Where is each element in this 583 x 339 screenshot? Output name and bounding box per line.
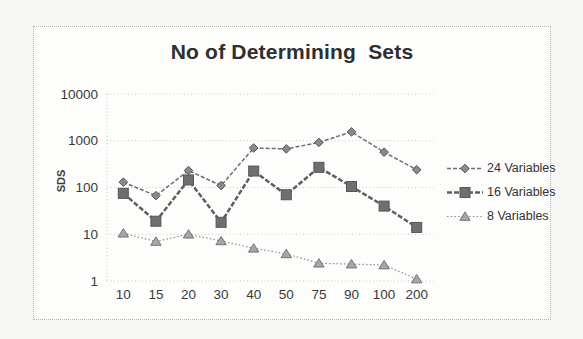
x-tick-20: 20	[181, 287, 196, 302]
series-24-variables	[119, 128, 421, 200]
square-marker-16-variables	[249, 166, 259, 176]
x-tick-100: 100	[373, 287, 396, 302]
legend-diamond-glyph	[461, 164, 470, 173]
square-marker-icon	[446, 186, 484, 199]
legend-marker-24-variables	[461, 164, 470, 173]
series-line-24-variables	[123, 132, 416, 196]
legend-label-16-variables: 16 Variables	[487, 185, 556, 199]
series-line-8-variables	[123, 233, 416, 279]
legend-marker-16-variables	[460, 187, 470, 197]
x-tick-30: 30	[214, 287, 229, 302]
y-tick-10000: 10000	[60, 87, 98, 102]
triangle-marker-8-variables	[118, 229, 128, 237]
x-tick-15: 15	[148, 287, 163, 302]
triangle-marker-icon	[446, 210, 484, 223]
series-line-16-variables	[123, 167, 416, 227]
square-marker-16-variables	[216, 217, 226, 227]
square-marker-16-variables	[151, 216, 161, 226]
y-tick-1000: 1000	[68, 133, 98, 148]
diamond-marker-24-variables	[119, 178, 128, 187]
y-tick-10: 10	[83, 227, 98, 242]
legend-item-24-variables: 24 Variables	[446, 161, 550, 175]
square-marker-16-variables	[184, 175, 194, 185]
x-tick-50: 50	[279, 287, 294, 302]
legend-square-glyph	[460, 187, 470, 197]
diamond-marker-icon	[446, 162, 484, 175]
square-marker-16-variables	[118, 188, 128, 198]
square-marker-16-variables	[314, 162, 324, 172]
square-marker-16-variables	[347, 182, 357, 192]
series-8-variables	[118, 229, 422, 283]
square-marker-16-variables	[412, 222, 422, 232]
legend-triangle-glyph	[460, 211, 470, 219]
series-16-variables	[118, 162, 421, 232]
chart-figure-frame: No of Determining Sets SDS 1101001000100…	[33, 26, 551, 320]
triangle-marker-8-variables	[412, 274, 422, 282]
x-tick-75: 75	[311, 287, 326, 302]
diamond-marker-24-variables	[380, 148, 389, 157]
diamond-marker-24-variables	[315, 138, 324, 147]
diamond-marker-24-variables	[412, 165, 421, 174]
diamond-marker-24-variables	[347, 128, 356, 137]
legend-item-16-variables: 16 Variables	[446, 185, 550, 199]
square-marker-16-variables	[379, 201, 389, 211]
legend-item-8-variables: 8 Variables	[446, 209, 550, 223]
x-tick-90: 90	[344, 287, 359, 302]
y-tick-1: 1	[90, 274, 98, 289]
x-tick-200: 200	[405, 287, 428, 302]
y-tick-100: 100	[75, 180, 98, 195]
x-tick-40: 40	[246, 287, 261, 302]
legend-label-24-variables: 24 Variables	[487, 161, 556, 175]
triangle-marker-8-variables	[379, 260, 389, 268]
x-tick-10: 10	[116, 287, 131, 302]
legend-label-8-variables: 8 Variables	[487, 209, 549, 223]
diamond-marker-24-variables	[282, 145, 291, 154]
legend-marker-8-variables	[460, 211, 470, 219]
square-marker-16-variables	[281, 190, 291, 200]
legend: 24 Variables 16 Variables 8 Variables	[446, 161, 550, 223]
